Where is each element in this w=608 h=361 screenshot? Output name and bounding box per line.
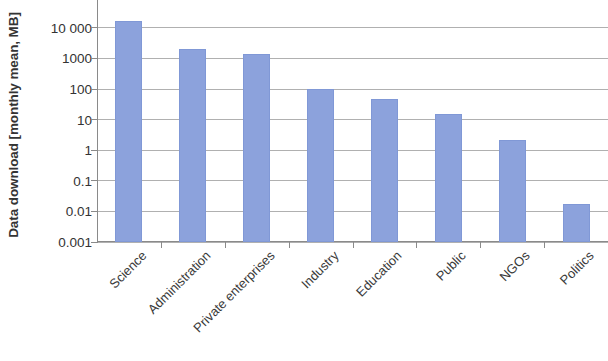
bar (563, 204, 590, 242)
gridline (97, 150, 608, 151)
x-tick-label-text: Science (106, 248, 149, 291)
y-tick-mark (91, 89, 98, 90)
x-axis-tick-labels: ScienceAdministrationPrivate enterprises… (97, 248, 608, 361)
y-tick-mark (91, 242, 98, 243)
y-tick-mark (91, 211, 98, 212)
y-tick-label: 10 000 (26, 20, 92, 35)
y-tick-label: 0.001 (26, 235, 92, 250)
y-tick-label: 100 (26, 82, 92, 97)
gridline (97, 27, 608, 28)
x-tick-label-text: Industry (298, 248, 341, 291)
x-tick-label-text: Public (433, 248, 469, 284)
y-tick-label: 1 (26, 143, 92, 158)
y-axis-title-text: Data download [monthly mean, MB] (6, 12, 21, 238)
y-tick-mark (91, 58, 98, 59)
y-tick-label: 1000 (26, 51, 92, 66)
bar (371, 99, 398, 242)
y-tick-label: 10 (26, 112, 92, 127)
x-tick-label-text: Politics (557, 248, 597, 288)
x-tick-label-text: NGOs (497, 248, 533, 284)
plot-area (97, 0, 608, 242)
y-tick-label: 0.01 (26, 204, 92, 219)
y-tick-mark (91, 119, 98, 120)
y-tick-label: 0.1 (26, 173, 92, 188)
y-tick-mark (91, 27, 98, 28)
bar (115, 21, 142, 242)
y-tick-mark (91, 180, 98, 181)
gridline (97, 119, 608, 120)
gridline (97, 211, 608, 212)
bar (499, 140, 526, 242)
bar (179, 49, 206, 242)
gridline (97, 89, 608, 90)
bar-chart: Data download [monthly mean, MB] 10 0001… (0, 0, 608, 361)
y-tick-mark (91, 150, 98, 151)
x-tick-label-text: Administration (145, 248, 214, 317)
y-axis-tick-labels: 10 00010001001010.10.010.001 (26, 0, 92, 250)
x-tick-label-text: Education (354, 248, 405, 299)
gridline (97, 58, 608, 59)
y-axis-title: Data download [monthly mean, MB] (0, 0, 26, 250)
y-axis-line (97, 0, 98, 242)
